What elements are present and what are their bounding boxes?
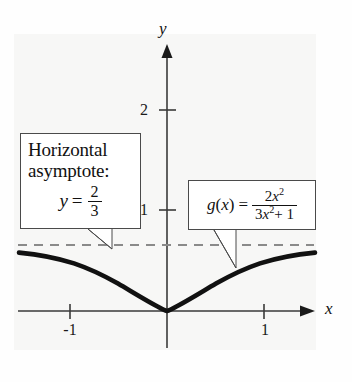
function-fraction: 2x2 3x2+ 1	[252, 189, 297, 222]
denominator-plus: +	[274, 206, 282, 222]
function-denominator: 3x2+ 1	[252, 206, 297, 222]
asymptote-fraction-denominator: 3	[88, 202, 102, 219]
function-callout: g ( x ) = 2x2 3x2+ 1	[188, 180, 316, 230]
function-expression: g ( x ) = 2x2 3x2+ 1	[207, 189, 297, 222]
x-tick-label-neg1: -1	[55, 322, 85, 338]
function-equals: =	[238, 195, 248, 215]
asymptote-fraction-numerator: 2	[88, 184, 102, 201]
asymptote-equation-variable: y	[59, 190, 67, 212]
x-axis-label: x	[325, 300, 333, 317]
x-tick-label-1: 1	[250, 322, 280, 338]
y-axis-label: y	[159, 20, 167, 37]
denominator-constant: 1	[286, 206, 294, 222]
asymptote-equation-sign: =	[72, 190, 83, 212]
function-graph-figure: y x -1 1 1 2 Horizontal asymptote: y = 2…	[0, 0, 352, 382]
asymptote-fraction: 2 3	[88, 184, 102, 219]
function-callout-tail	[214, 230, 236, 268]
function-arg: x	[221, 195, 229, 215]
function-numerator: 2x2	[262, 189, 287, 205]
y-axis	[162, 44, 173, 348]
function-name: g	[207, 195, 216, 215]
asymptote-equation: y = 2 3	[28, 184, 133, 219]
numerator-exponent: 2	[279, 186, 284, 197]
asymptote-callout: Horizontal asymptote: y = 2 3	[20, 133, 141, 229]
asymptote-callout-line1: Horizontal	[28, 139, 133, 160]
function-arg-close: )	[229, 195, 235, 215]
denominator-coefficient: 3	[255, 206, 263, 222]
asymptote-callout-line2: asymptote:	[28, 160, 133, 181]
y-tick-label-2: 2	[136, 102, 152, 118]
